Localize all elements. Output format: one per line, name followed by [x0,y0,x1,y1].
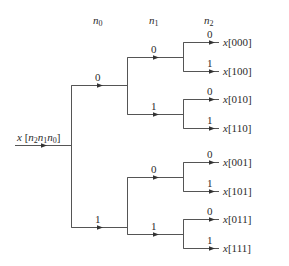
branch-label: 1 [207,114,213,126]
branch-label: 0 [151,163,157,175]
branch-label: 0 [95,71,101,83]
branch-label: 0 [207,28,213,40]
output-label: x[001] [223,156,252,168]
output-label: x[101] [223,185,252,197]
branch-label: 1 [95,213,101,225]
output-label: x[000] [223,36,252,48]
header-n0: n0 [93,14,103,30]
branch-label: 0 [207,205,213,217]
branch-label: 1 [207,234,213,246]
output-label: x[010] [223,93,252,105]
branch-label: 0 [207,85,213,97]
output-label: x[100] [223,65,252,77]
branch-label: 1 [207,177,213,189]
branch-label: 1 [151,220,157,232]
branch-label: 0 [207,148,213,160]
input-label: x [n2n1n0] [17,131,60,147]
output-label: x[011] [223,213,251,225]
header-n1: n1 [149,14,159,30]
branch-label: 1 [207,57,213,69]
branch-label: 0 [151,43,157,55]
branch-label: 1 [151,100,157,112]
output-label: x[110] [223,122,251,134]
output-label: x[111] [223,242,251,254]
